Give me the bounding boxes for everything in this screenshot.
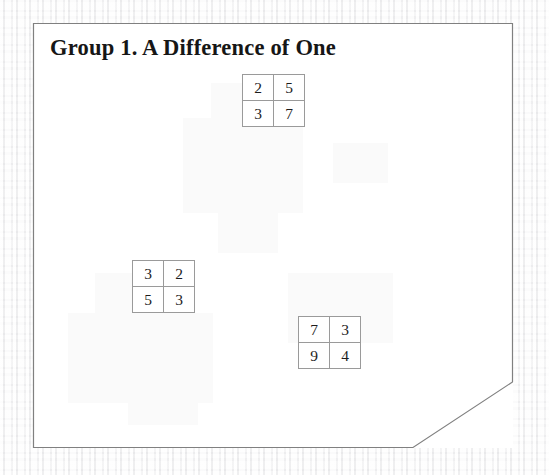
grid-cell: 5 [133, 287, 164, 313]
grid-cell: 2 [164, 261, 195, 287]
scanned-page-canvas: Group 1. A Difference of One 25373253739… [0, 0, 549, 475]
grid-cell: 3 [164, 287, 195, 313]
grid-cell: 5 [274, 75, 305, 101]
grid-3: 7394 [298, 316, 361, 369]
grid-cell: 3 [243, 101, 274, 127]
grid-cell: 3 [133, 261, 164, 287]
grid-2: 3253 [132, 260, 195, 313]
grid-cell: 7 [274, 101, 305, 127]
grid-cell: 4 [330, 343, 361, 369]
page-title: Group 1. A Difference of One [50, 35, 336, 61]
grid-1: 2537 [242, 74, 305, 127]
grid-cell: 2 [243, 75, 274, 101]
grid-cell: 3 [330, 317, 361, 343]
grid-cell: 9 [299, 343, 330, 369]
document-page: Group 1. A Difference of One 25373253739… [33, 23, 513, 448]
grid-cell: 7 [299, 317, 330, 343]
